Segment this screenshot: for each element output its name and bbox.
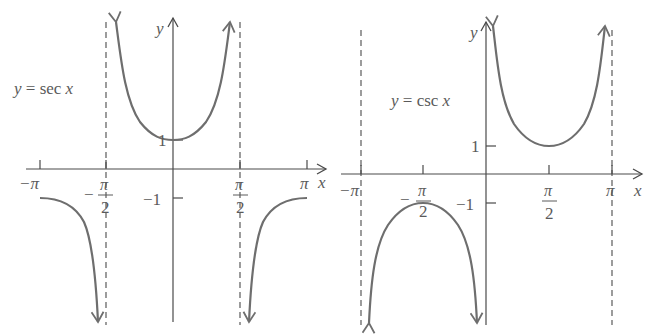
svg-text:2: 2 [236, 198, 245, 217]
tick-label-y-neg-one: −1 [456, 195, 474, 214]
svg-text:2: 2 [101, 198, 110, 217]
svg-text:−: − [84, 185, 94, 204]
function-label: y = sec x [12, 79, 74, 98]
tick-label-neg-half-pi: − π 2 [400, 182, 431, 221]
sec-branch-right [249, 198, 307, 322]
tick-label-half-pi: π 2 [542, 182, 557, 223]
csc-chart: y x y = csc x −π − π 2 −1 1 π 2 π [339, 22, 642, 325]
svg-text:π: π [100, 176, 109, 193]
tick-label-neg-pi: −π [19, 174, 39, 193]
svg-text:2: 2 [545, 204, 554, 223]
svg-text:π: π [544, 182, 553, 199]
csc-branch-negative [369, 203, 477, 323]
svg-text:π: π [418, 182, 427, 199]
tick-label-neg-pi: −π [339, 181, 359, 200]
axis-label-y: y [154, 19, 164, 38]
sec-branch-left [40, 198, 98, 322]
tick-label-y-one: 1 [471, 137, 480, 156]
svg-text:π: π [235, 176, 244, 193]
function-label: y = csc x [389, 91, 451, 110]
tick-label-y-one: 1 [158, 131, 167, 150]
csc-branch-positive [493, 26, 605, 146]
svg-text:2: 2 [419, 202, 428, 221]
tick-label-pi: π [300, 174, 309, 193]
axis-label-x: x [633, 181, 642, 200]
trig-graphs-figure: y x y = sec x −π − π 2 π 2 π 1 −1 [0, 0, 650, 335]
axis-label-y: y [468, 23, 478, 42]
sec-chart: y x y = sec x −π − π 2 π 2 π 1 −1 [12, 18, 326, 325]
svg-text:−: − [400, 190, 410, 209]
tick-label-y-neg-one: −1 [143, 190, 161, 209]
tick-label-pi: π [606, 181, 615, 200]
axis-label-x: x [317, 173, 326, 192]
tick-label-neg-half-pi: − π 2 [84, 176, 113, 217]
